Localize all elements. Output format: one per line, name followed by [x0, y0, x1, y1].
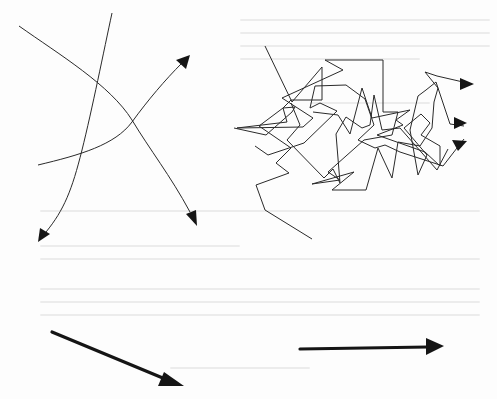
crossing-curves-figure: [19, 13, 197, 242]
tangled-path-figure: [234, 46, 464, 239]
arrowhead-icon: [460, 78, 474, 90]
curve-arrow-up-right: [38, 63, 182, 165]
horizontal-arrow-shaft: [300, 347, 428, 349]
arrowhead-icon: [454, 117, 467, 129]
arrowhead-icon: [186, 210, 197, 226]
curve-arrow-down-left: [46, 13, 112, 232]
arrowhead-icon: [158, 372, 184, 386]
curve-arrow-down-right: [19, 26, 190, 212]
horizontal-arrow-figure: [300, 338, 444, 355]
diagonal-arrow-shaft: [52, 332, 170, 381]
arrowhead-icon: [426, 338, 444, 355]
figures-canvas: [0, 0, 497, 399]
arrowhead-icon: [38, 228, 50, 242]
tangle-strand: [237, 46, 463, 190]
diagonal-arrow-figure: [52, 332, 184, 386]
document-page: [0, 0, 497, 399]
arrowhead-icon: [452, 140, 467, 151]
